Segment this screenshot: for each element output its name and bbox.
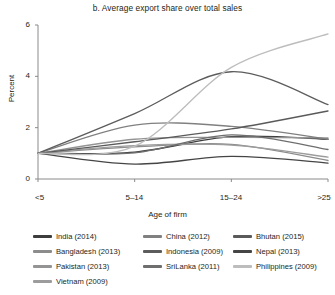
legend-item-bangladesh-2013[interactable]: Bangladesh (2013) xyxy=(33,247,120,256)
legend-item-nepal-2013[interactable]: Nepal (2013) xyxy=(233,247,300,256)
x-tick-label: <5 xyxy=(35,193,44,202)
legend-swatch xyxy=(233,235,252,237)
legend-item-india-2014[interactable]: India (2014) xyxy=(33,232,97,241)
legend-label: India (2014) xyxy=(56,232,97,241)
x-tick-label: 15–24 xyxy=(220,193,242,202)
chart-legend: India (2014)China (2012)Bhutan (2015)Ban… xyxy=(0,232,335,294)
legend-item-bhutan-2015[interactable]: Bhutan (2015) xyxy=(233,232,304,241)
legend-item-pakistan-2013[interactable]: Pakistan (2013) xyxy=(33,262,109,271)
legend-label: Pakistan (2013) xyxy=(56,262,109,271)
x-tick-label: 5–14 xyxy=(125,193,143,202)
legend-label: Bhutan (2015) xyxy=(256,232,304,241)
legend-label: Vietnam (2009) xyxy=(56,277,108,286)
legend-swatch xyxy=(33,265,52,267)
legend-swatch xyxy=(143,235,162,237)
legend-swatch xyxy=(33,250,52,252)
legend-swatch xyxy=(233,250,252,252)
legend-label: Philippines (2009) xyxy=(256,262,317,271)
legend-label: SriLanka (2011) xyxy=(166,262,219,271)
legend-label: China (2012) xyxy=(166,232,210,241)
legend-label: Indonesia (2009) xyxy=(166,247,223,256)
legend-swatch xyxy=(143,250,162,252)
legend-label: Nepal (2013) xyxy=(256,247,300,256)
legend-label: Bangladesh (2013) xyxy=(56,247,120,256)
x-tick-label: >25 xyxy=(317,193,331,202)
legend-swatch xyxy=(143,265,162,267)
legend-item-vietnam-2009[interactable]: Vietnam (2009) xyxy=(33,277,108,286)
chart-title: b. Average export share over total sales xyxy=(0,3,335,13)
plot-area xyxy=(0,18,335,188)
plot-svg xyxy=(0,18,335,188)
chart-figure: b. Average export share over total sales… xyxy=(0,0,335,295)
legend-swatch xyxy=(33,235,52,237)
legend-swatch xyxy=(233,265,252,267)
legend-swatch xyxy=(33,280,52,282)
x-axis-label: Age of firm xyxy=(0,210,335,219)
legend-item-philippines-2009[interactable]: Philippines (2009) xyxy=(233,262,317,271)
legend-item-china-2012[interactable]: China (2012) xyxy=(143,232,210,241)
legend-item-srilanka-2011[interactable]: SriLanka (2011) xyxy=(143,262,219,271)
legend-item-indonesia-2009[interactable]: Indonesia (2009) xyxy=(143,247,223,256)
